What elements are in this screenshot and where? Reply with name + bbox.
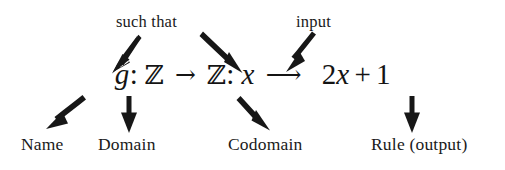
formula-map-arrow-2: ⟶ — [255, 60, 313, 89]
arrow-to-domain — [121, 96, 137, 133]
formula-function-name: g — [115, 58, 130, 90]
annotation-label-such-that: such that — [116, 14, 177, 31]
annotation-label-codomain: Codomain — [228, 136, 303, 154]
arrow-to-codomain — [237, 96, 271, 131]
function-notation-diagram: such that input g:ℤ→ℤ:x⟶2x+1 Name Domain… — [0, 0, 505, 170]
formula-rule-coefficient: 2 — [322, 58, 337, 90]
annotation-label-rule: Rule (output) — [371, 136, 467, 154]
formula-codomain-symbol: ℤ — [207, 59, 226, 90]
annotation-label-name: Name — [21, 136, 64, 154]
formula-rule-variable: x — [336, 58, 349, 90]
arrow-to-rule — [404, 96, 420, 133]
arrow-g-to-name — [46, 95, 86, 129]
annotation-label-input: input — [296, 14, 331, 31]
formula-colon-2: : — [226, 58, 241, 90]
formula-rule-operator: + — [350, 58, 376, 90]
formula-input-variable: x — [241, 58, 254, 90]
formula-map-arrow-1: → — [164, 60, 207, 89]
formula-colon-1: : — [130, 58, 145, 90]
formula-domain-symbol: ℤ — [145, 59, 164, 90]
formula-rule-constant: 1 — [376, 58, 391, 90]
annotation-label-domain: Domain — [98, 136, 156, 154]
function-formula: g:ℤ→ℤ:x⟶2x+1 — [0, 60, 505, 89]
